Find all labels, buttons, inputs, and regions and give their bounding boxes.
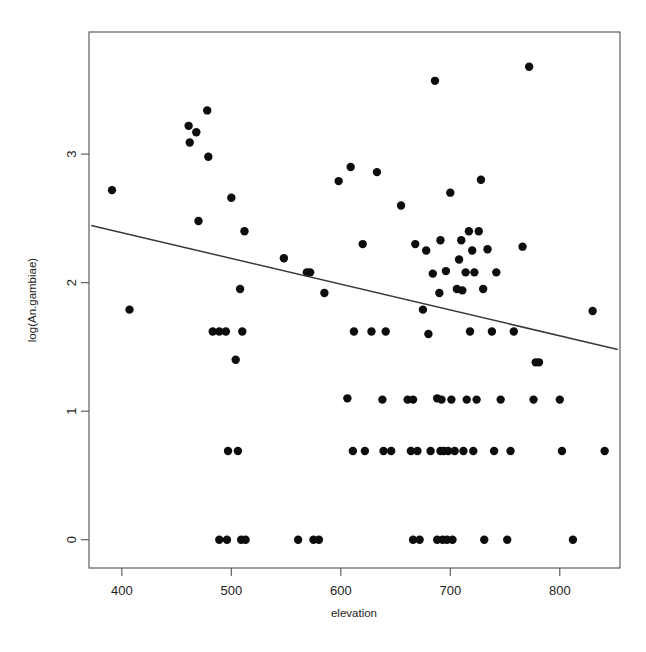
data-point <box>232 356 240 364</box>
data-point <box>459 447 467 455</box>
data-point <box>238 327 246 335</box>
data-point <box>490 447 498 455</box>
data-point <box>224 447 232 455</box>
x-axis-tick-labels: 400500600700800 <box>111 583 571 598</box>
data-point <box>234 447 242 455</box>
data-point <box>506 447 514 455</box>
data-point <box>192 128 200 136</box>
plot-frame-box <box>89 32 620 568</box>
data-point <box>236 285 244 293</box>
data-point <box>600 447 608 455</box>
y-axis-ticks <box>81 154 89 540</box>
data-point <box>450 447 458 455</box>
data-point <box>409 395 417 403</box>
data-point <box>415 536 423 544</box>
data-point <box>204 152 212 160</box>
data-point <box>480 536 488 544</box>
data-point <box>349 447 357 455</box>
data-point <box>436 236 444 244</box>
data-point <box>558 447 566 455</box>
data-point <box>184 122 192 130</box>
data-point <box>458 286 466 294</box>
y-axis-tick-labels: 0123 <box>65 150 80 543</box>
data-point <box>343 394 351 402</box>
data-point <box>483 245 491 253</box>
data-point <box>240 227 248 235</box>
data-point <box>442 267 450 275</box>
data-point <box>367 327 375 335</box>
data-point <box>488 327 496 335</box>
data-point <box>320 289 328 297</box>
data-point <box>477 176 485 184</box>
data-point <box>413 447 421 455</box>
data-point <box>431 77 439 85</box>
data-point <box>373 168 381 176</box>
data-point <box>203 106 211 114</box>
data-point <box>569 536 577 544</box>
data-point <box>194 217 202 225</box>
data-point <box>350 327 358 335</box>
data-point <box>503 536 511 544</box>
data-point <box>463 395 471 403</box>
data-point <box>382 327 390 335</box>
data-point <box>419 305 427 313</box>
data-point <box>306 268 314 276</box>
data-point <box>469 447 477 455</box>
data-point <box>510 327 518 335</box>
x-tick-label: 600 <box>330 583 352 598</box>
data-point <box>222 327 230 335</box>
data-point <box>461 268 469 276</box>
y-tick-label: 1 <box>65 408 80 415</box>
data-point <box>359 240 367 248</box>
data-point <box>446 188 454 196</box>
data-point <box>588 307 596 315</box>
data-point <box>496 395 504 403</box>
data-point <box>465 227 473 235</box>
data-point <box>470 268 478 276</box>
data-point <box>426 447 434 455</box>
data-point <box>241 536 249 544</box>
data-point <box>447 395 455 403</box>
x-axis-ticks <box>122 568 560 576</box>
y-axis-title: log(An.gambiae) <box>26 258 38 343</box>
data-point <box>411 240 419 248</box>
plot-canvas: 400500600700800 0123 elevation log(An.ga… <box>0 0 646 652</box>
data-point <box>437 395 445 403</box>
data-point <box>455 255 463 263</box>
x-tick-label: 400 <box>111 583 133 598</box>
data-point <box>227 194 235 202</box>
data-point <box>435 289 443 297</box>
data-point <box>429 269 437 277</box>
data-point <box>475 227 483 235</box>
data-point <box>334 177 342 185</box>
data-points-group <box>108 63 609 544</box>
data-point <box>315 536 323 544</box>
data-point <box>556 395 564 403</box>
data-point <box>125 305 133 313</box>
data-point <box>215 536 223 544</box>
data-point <box>457 236 465 244</box>
data-point <box>397 201 405 209</box>
y-tick-label: 3 <box>65 150 80 157</box>
data-point <box>280 254 288 262</box>
scatter-plot-figure: 400500600700800 0123 elevation log(An.ga… <box>0 0 646 652</box>
data-point <box>448 536 456 544</box>
x-tick-label: 500 <box>220 583 242 598</box>
data-point <box>361 447 369 455</box>
data-point <box>294 536 302 544</box>
data-point <box>424 330 432 338</box>
data-point <box>492 268 500 276</box>
x-tick-label: 700 <box>439 583 461 598</box>
y-tick-label: 0 <box>65 536 80 543</box>
data-point <box>535 358 543 366</box>
data-point <box>108 186 116 194</box>
data-point <box>379 447 387 455</box>
x-tick-label: 800 <box>549 583 571 598</box>
data-point <box>378 395 386 403</box>
data-point <box>525 63 533 71</box>
x-axis-title: elevation <box>331 607 377 619</box>
data-point <box>346 163 354 171</box>
data-point <box>518 242 526 250</box>
data-point <box>186 138 194 146</box>
data-point <box>479 285 487 293</box>
